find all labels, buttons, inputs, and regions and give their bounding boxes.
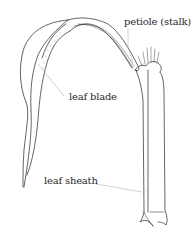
leaf-illustration [0, 0, 195, 240]
leaf-sheath-shape [136, 70, 153, 226]
petiole-leader-line [128, 28, 133, 62]
leaf-blade-label: leaf blade [69, 91, 117, 102]
petiole-label: petiole (stalk) [124, 16, 191, 27]
sheath-leader-line [96, 184, 142, 192]
blade-leader-line [38, 64, 64, 96]
leaf-sheath-label: leaf sheath [44, 175, 98, 186]
